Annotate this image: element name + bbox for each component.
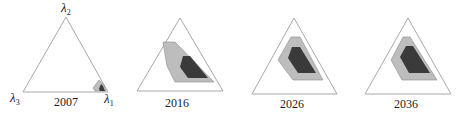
year-label: 2036 [394,97,418,111]
year-label: 2016 [165,96,189,110]
year-label: 2007 [54,95,78,109]
lambda-subscript: 1 [110,99,114,108]
ternary-panel-2026: 2026 [252,18,337,111]
vertex-label-left: λ3 [9,90,20,107]
vertex-label-right: λ1 [103,91,114,108]
ternary-figure: 2007201620262036 λ2 λ3 λ1 [0,0,464,119]
ternary-panel-2007: 2007 [23,17,108,109]
year-label: 2026 [280,97,304,111]
ternary-panels: 2007201620262036 [23,17,451,111]
vertex-label-top: λ2 [60,0,71,17]
lambda-subscript: 2 [67,8,71,17]
simplex-triangle [23,17,108,92]
ternary-panel-2016: 2016 [137,18,223,110]
ternary-panel-2036: 2036 [365,18,451,111]
lambda-subscript: 3 [16,98,20,107]
